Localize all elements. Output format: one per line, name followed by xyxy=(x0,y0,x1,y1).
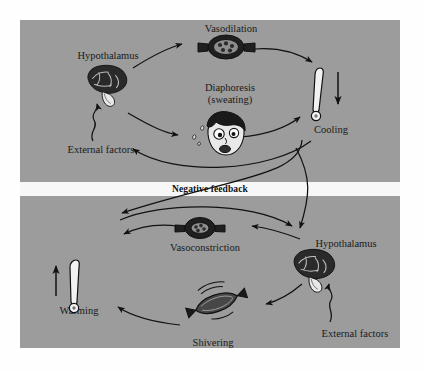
lower-panel-heat-gain xyxy=(20,196,400,348)
label-cooling: Cooling xyxy=(300,124,362,135)
label-hypothalamus-top: Hypothalamus xyxy=(58,50,158,61)
negative-feedback-label: Negative feedback xyxy=(20,182,400,196)
label-diaphoresis-line1: Diaphoresis xyxy=(205,82,255,93)
label-diaphoresis: Diaphoresis (sweating) xyxy=(180,82,280,105)
negative-feedback-band: Negative feedback xyxy=(20,182,400,196)
label-vasodilation: Vasodilation xyxy=(186,23,276,34)
label-external-factors-bottom: External factors xyxy=(302,328,408,339)
label-vasoconstriction: Vasoconstriction xyxy=(148,242,262,253)
label-warming: Warming xyxy=(48,305,110,316)
label-diaphoresis-line2: (sweating) xyxy=(208,94,252,105)
label-shivering: Shivering xyxy=(178,337,248,348)
thermoregulation-figure: Negative feedback Vasodilation Hypothala… xyxy=(0,0,424,371)
label-hypothalamus-bottom: Hypothalamus xyxy=(296,238,396,249)
label-external-factors-top: External factors xyxy=(48,144,154,155)
